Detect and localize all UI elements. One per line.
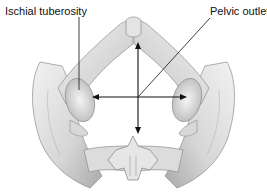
anteroposterior-diameter-arrow [135, 42, 141, 134]
right-ischial-spine [179, 120, 197, 136]
pelvis-diagram: Ischial tuberosity Pelvic outlet [0, 0, 267, 196]
arrowhead-down-icon [135, 127, 141, 134]
pubic-symphysis [126, 17, 141, 37]
coccyx [108, 136, 158, 180]
ischial-tuberosity-label: Ischial tuberosity [5, 6, 87, 17]
pelvis-illustration [0, 0, 267, 196]
pelvic-outlet-label: Pelvic outlet [210, 6, 267, 17]
left-ischial-spine [70, 120, 88, 136]
